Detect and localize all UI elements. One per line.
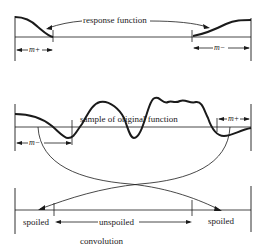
- arc-right: [40, 127, 230, 209]
- response-function-label: response function: [83, 16, 147, 25]
- response-left-lobe: [15, 17, 53, 37]
- convolution-diagram: [0, 0, 268, 252]
- convolution-caption: convolution: [80, 237, 123, 246]
- sample-label: sample of original function: [80, 115, 178, 124]
- unspoiled-label: unspoiled: [99, 218, 134, 227]
- m-plus-label-middle: m+: [228, 115, 239, 123]
- spoiled-left-label: spoiled: [23, 218, 49, 227]
- arc-left: [38, 127, 220, 210]
- m-plus-label-top: m+: [29, 46, 40, 54]
- response-right-lobe: [193, 20, 251, 36]
- m-minus-label-top: m−: [214, 44, 225, 52]
- spoiled-right-label: spoiled: [208, 217, 234, 226]
- m-minus-label-middle: m−: [29, 139, 40, 147]
